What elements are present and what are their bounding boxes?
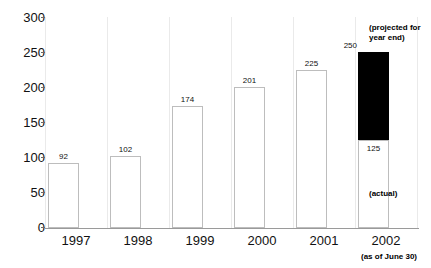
x-tick-label-2002: 2002 — [355, 233, 417, 248]
bar-2000[interactable] — [234, 87, 265, 228]
y-tick-label-200: 200 — [7, 81, 45, 94]
category-divider — [45, 17, 46, 228]
projected-note-line2: year end) — [369, 33, 405, 43]
bar-chart: 300 250 200 150 100 50 0 92 102 174 201 … — [0, 0, 431, 268]
category-divider — [293, 17, 294, 228]
category-divider — [417, 17, 418, 228]
bar-value-1998: 102 — [110, 145, 141, 154]
bar-value-1997: 92 — [48, 152, 79, 161]
bar-2001[interactable] — [296, 70, 327, 228]
category-divider — [231, 17, 232, 228]
bar-2002-projected[interactable] — [358, 52, 389, 140]
x-axis-line — [45, 228, 419, 229]
x-tick-label-1999: 1999 — [169, 233, 231, 248]
bar-value-2001: 225 — [296, 59, 327, 68]
category-divider — [107, 17, 108, 228]
bar-value-1999: 174 — [172, 95, 203, 104]
y-tick-label-100: 100 — [7, 151, 45, 164]
bar-1997[interactable] — [48, 163, 79, 228]
y-tick-label-50: 50 — [7, 186, 45, 199]
y-axis: 300 250 200 150 100 50 0 — [0, 0, 45, 268]
y-tick-label-300: 300 — [7, 11, 45, 24]
category-divider — [169, 17, 170, 228]
bar-value-2000: 201 — [234, 76, 265, 85]
x-tick-label-1998: 1998 — [107, 233, 169, 248]
actual-note: (actual) — [369, 189, 397, 199]
y-tick-label-250: 250 — [7, 46, 45, 59]
projected-note-line1: (projected for — [369, 23, 421, 33]
y-tick-label-0: 0 — [7, 221, 45, 234]
y-tick-label-150: 150 — [7, 116, 45, 129]
x-tick-label-2000: 2000 — [231, 233, 293, 248]
bar-1998[interactable] — [110, 156, 141, 228]
bar-value-2002-actual: 125 — [358, 144, 389, 153]
x-tick-label-1997: 1997 — [45, 233, 107, 248]
x-tick-label-2001: 2001 — [293, 233, 355, 248]
footnote-as-of-date: (as of June 30) — [361, 252, 417, 262]
bar-2002-actual[interactable] — [358, 140, 389, 228]
bar-1999[interactable] — [172, 106, 203, 228]
bar-value-2002-projected: 250 — [341, 41, 357, 50]
